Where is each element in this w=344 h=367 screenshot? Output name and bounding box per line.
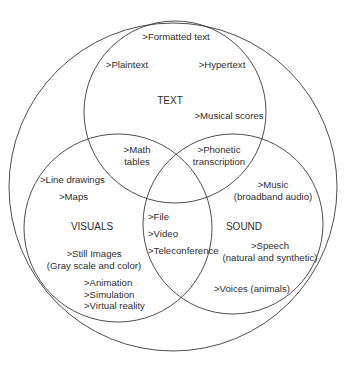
music-line-1: >Music <box>234 179 312 191</box>
region-title-text: TEXT <box>157 95 183 107</box>
label-line-drawings: >Line drawings <box>40 174 105 186</box>
region-title-sound: SOUND <box>226 221 262 233</box>
label-phonetic-transcription: >Phonetic transcription <box>193 144 245 167</box>
label-formatted-text: >Formatted text <box>142 31 209 43</box>
label-musical-scores: >Musical scores <box>194 110 263 122</box>
speech-line-2: (natural and synthetic) <box>223 252 318 264</box>
label-hypertext: >Hypertext <box>199 59 246 71</box>
label-simulation: >Simulation <box>84 289 145 301</box>
region-title-visuals: VISUALS <box>71 221 113 233</box>
speech-line-1: >Speech <box>223 240 318 252</box>
label-teleconference: >Teleconference <box>148 245 219 257</box>
label-music: >Music (broadband audio) <box>234 179 312 202</box>
still-images-line-2: (Gray scale and color) <box>47 260 141 272</box>
label-math-tables: >Math tables <box>124 144 151 167</box>
label-animation-group: >Animation >Simulation >Virtual reality <box>84 277 145 312</box>
phonetic-line-2: transcription <box>193 156 245 168</box>
label-speech: >Speech (natural and synthetic) <box>223 240 318 263</box>
label-video: >Video <box>148 228 178 240</box>
label-file: >File <box>148 211 169 223</box>
math-line-2: tables <box>124 156 151 168</box>
math-line-1: >Math <box>124 144 151 156</box>
label-still-images: >Still Images (Gray scale and color) <box>47 248 141 271</box>
phonetic-line-1: >Phonetic <box>193 144 245 156</box>
label-virtual-reality: >Virtual reality <box>84 300 145 312</box>
label-plaintext: >Plaintext <box>106 59 148 71</box>
still-images-line-1: >Still Images <box>47 248 141 260</box>
music-line-2: (broadband audio) <box>234 191 312 203</box>
label-voices-animals: >Voices (animals) <box>214 283 290 295</box>
label-maps: >Maps <box>59 191 88 203</box>
label-animation: >Animation <box>84 277 145 289</box>
